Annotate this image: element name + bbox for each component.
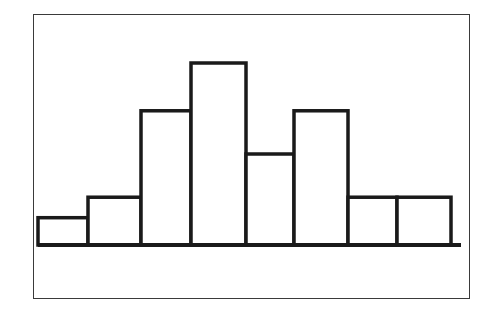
histogram <box>0 0 494 315</box>
histogram-bar <box>191 63 246 245</box>
histogram-bar <box>397 197 451 245</box>
histogram-bar <box>141 111 191 245</box>
histogram-bar <box>294 111 348 245</box>
histogram-bar <box>88 197 141 245</box>
histogram-bar <box>38 218 88 245</box>
histogram-bar <box>348 197 397 245</box>
histogram-bar <box>246 154 294 245</box>
